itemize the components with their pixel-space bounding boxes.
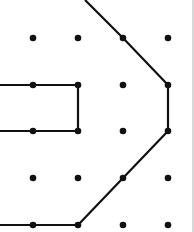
grid-dot (30, 222, 37, 229)
grid-dot (75, 128, 82, 135)
grid-dot (120, 222, 127, 229)
grid-dot (75, 35, 82, 42)
grid-dot (165, 175, 172, 182)
grid-dot (30, 175, 37, 182)
grid-dot (165, 82, 172, 89)
shape-outline-1 (0, 85, 78, 131)
grid-dot (165, 222, 172, 229)
grid-dot (30, 128, 37, 135)
shape-outline-0 (0, 0, 168, 225)
right-border (192, 0, 194, 232)
grid-dot (75, 222, 82, 229)
grid-dot (75, 175, 82, 182)
grid-dot (165, 35, 172, 42)
grid-dot (120, 128, 127, 135)
grid-dot (120, 82, 127, 89)
grid-dot (120, 35, 127, 42)
grid-dot (30, 82, 37, 89)
grid-dot (30, 35, 37, 42)
grid-canvas (0, 0, 194, 232)
grid-dot (75, 82, 82, 89)
grid-dot (165, 128, 172, 135)
grid-dot (120, 175, 127, 182)
